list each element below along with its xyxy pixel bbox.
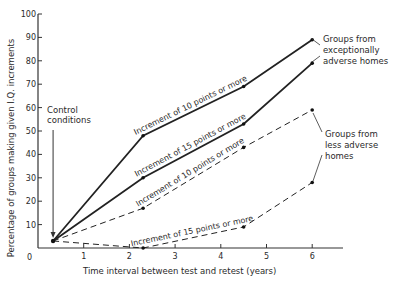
x-axis-label: Time interval between test and retest (y… (82, 266, 276, 276)
data-point (141, 176, 145, 180)
data-point (141, 134, 145, 138)
origin-label: 0 (27, 253, 32, 262)
control-label: Control (47, 105, 78, 115)
leader-line (313, 113, 322, 132)
y-tick-label: 60 (26, 104, 36, 113)
leader-line (312, 39, 320, 45)
data-point (242, 225, 246, 229)
y-tick-label: 100 (21, 10, 36, 19)
less-adverse-homes-label: Groups from (325, 129, 378, 139)
series-line (53, 40, 312, 241)
less-adverse-homes-label: homes (325, 151, 354, 161)
arrowhead-icon (51, 232, 56, 238)
data-point (242, 146, 246, 150)
x-tick-label: 1 (81, 252, 86, 261)
series-line (53, 182, 312, 248)
y-tick-label: 50 (26, 127, 36, 136)
data-point (310, 181, 314, 185)
y-axis-label: Percentage of groups making given I.Q. i… (6, 38, 16, 257)
control-label: conditions (47, 115, 91, 125)
x-tick-label: 6 (310, 252, 315, 261)
less-adverse-homes-label: less adverse (325, 140, 378, 150)
data-point (141, 206, 145, 210)
x-tick-label: 3 (173, 252, 178, 261)
chart: 0102030405060708090100123456Time interva… (0, 0, 399, 286)
control-point (51, 239, 55, 243)
data-point (141, 246, 145, 250)
exceptional-homes-label: Groups from (323, 34, 376, 44)
line-chart: 0102030405060708090100123456Time interva… (0, 0, 399, 286)
data-point (310, 108, 314, 112)
y-tick-label: 90 (26, 33, 36, 42)
y-tick-label: 20 (26, 197, 36, 206)
series-label: Increment of 15 points or more (130, 214, 254, 248)
x-tick-label: 2 (127, 252, 132, 261)
y-tick-label: 80 (26, 57, 36, 66)
x-tick-label: 4 (218, 252, 223, 261)
y-tick-label: 30 (26, 174, 36, 183)
y-tick-label: 70 (26, 80, 36, 89)
series-lines: Increment of 10 points or moreIncrement … (53, 38, 314, 250)
data-point (242, 85, 246, 89)
leader-line (313, 155, 322, 181)
exceptional-homes-label: adverse homes (323, 56, 389, 66)
exceptional-homes-label: exceptionally (323, 45, 380, 55)
x-tick-label: 5 (264, 252, 269, 261)
leader-line (312, 56, 320, 62)
y-tick-label: 10 (26, 221, 36, 230)
y-tick-label: 40 (26, 150, 36, 159)
data-point (242, 122, 246, 126)
